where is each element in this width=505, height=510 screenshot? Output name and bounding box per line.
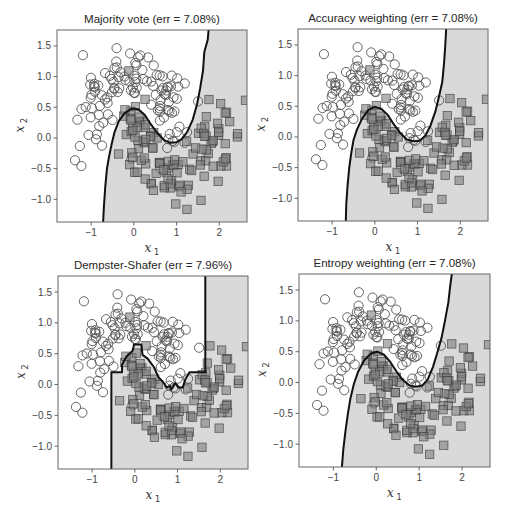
svg-text:x: x (255, 370, 269, 377)
x-tick-label: 2 (459, 472, 465, 483)
panel-title: Entropy weighting (err = 7.08%) (299, 257, 490, 269)
x-tick-label: 0 (373, 472, 379, 483)
y-tick-label: 0.5 (279, 346, 293, 357)
y-tick-label: 1.0 (279, 315, 293, 326)
x-tick-label: 1 (416, 472, 422, 483)
svg-text:2: 2 (262, 362, 271, 367)
scatter-plot: −1012−1.0−0.50.00.51.01.5x1x2 (0, 0, 505, 510)
y-tick-label: −0.5 (273, 408, 293, 419)
svg-text:1: 1 (397, 493, 402, 502)
y-tick-label: 1.5 (279, 285, 293, 296)
y-tick-label: 0.0 (279, 377, 293, 388)
y-tick-label: −1.0 (273, 439, 293, 450)
panel-entropy-weighting: −1012−1.0−0.50.00.51.01.5x1x2Entropy wei… (0, 0, 505, 510)
x-tick-label: −1 (328, 472, 340, 483)
x-axis-label: x (387, 486, 394, 500)
y-axis-label: x2 (255, 362, 271, 376)
